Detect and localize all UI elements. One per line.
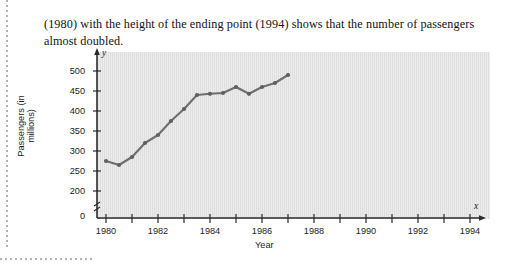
- xtick-label-1990: 1990: [349, 226, 383, 236]
- ytick-label-350: 350: [55, 126, 85, 136]
- line-chart-figure: 500 450 400 350 300 250 200 0 1980 1982 …: [0, 46, 511, 256]
- xtick-label-1988: 1988: [297, 226, 331, 236]
- data-point-1989: [221, 91, 225, 95]
- ytick-label-500: 500: [55, 66, 85, 76]
- xtick-label-1994: 1994: [453, 226, 487, 236]
- ytick-label-250: 250: [55, 166, 85, 176]
- ytick-label-400: 400: [55, 106, 85, 116]
- xtick-label-1992: 1992: [401, 226, 435, 236]
- xtick-label-1982: 1982: [141, 226, 175, 236]
- data-point-1987: [195, 93, 199, 97]
- data-point-1988: [208, 92, 212, 96]
- x-axis-title: Year: [255, 240, 274, 250]
- ytick-label-300: 300: [55, 146, 85, 156]
- x-axis-variable-label: x: [474, 201, 478, 211]
- data-point-markers: [104, 73, 290, 167]
- data-point-1986: [182, 107, 186, 111]
- data-point-1992: [260, 85, 264, 89]
- data-point-1982: [130, 155, 134, 159]
- y-axis-variable-label: y: [102, 48, 106, 58]
- ytick-label-200: 200: [55, 186, 85, 196]
- data-point-1985: [169, 119, 173, 123]
- data-point-1984: [156, 133, 160, 137]
- xtick-label-1984: 1984: [193, 226, 227, 236]
- data-point-1994: [286, 73, 290, 77]
- ytick-label-450: 450: [55, 86, 85, 96]
- ytick-label-0: 0: [55, 211, 85, 221]
- y-axis-title: Passengers (in millions): [16, 81, 36, 171]
- xtick-label-1986: 1986: [245, 226, 279, 236]
- data-point-1983: [143, 141, 147, 145]
- page-bottom-marker: [0, 258, 92, 260]
- data-point-1980: [104, 159, 108, 163]
- xtick-label-1980: 1980: [89, 226, 123, 236]
- data-point-1991: [247, 92, 251, 96]
- data-point-1990: [234, 85, 238, 89]
- data-point-1981: [117, 163, 121, 167]
- data-point-1993: [273, 81, 277, 85]
- axis-lines: [94, 48, 486, 221]
